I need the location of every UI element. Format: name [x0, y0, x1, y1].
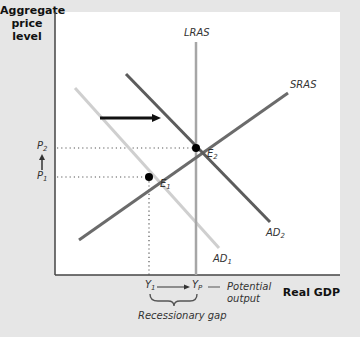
- yp-label-sub: P: [198, 284, 202, 292]
- ad2-label: AD2: [266, 227, 285, 240]
- y1-label: Y1: [145, 279, 156, 292]
- lras-label: LRAS: [184, 27, 210, 38]
- y1-label-sub: 1: [151, 284, 155, 292]
- sras-label: SRAS: [290, 79, 316, 90]
- e2-label: E2: [207, 148, 218, 161]
- x-axis-title: Real GDP: [283, 286, 340, 299]
- diagram-canvas: Aggregate price level: [0, 0, 360, 337]
- e2-label-sub: 2: [213, 153, 217, 161]
- p2-label: P2: [37, 140, 48, 153]
- ad2-label-text: AD: [266, 227, 281, 238]
- ad2-label-sub: 2: [281, 232, 285, 240]
- recessionary-gap-brace: [150, 294, 197, 306]
- ad1-label-text: AD: [213, 253, 228, 264]
- recessionary-gap-label: Recessionary gap: [138, 310, 227, 321]
- p1-label-sub: 1: [43, 175, 47, 183]
- ad1-label-sub: 1: [228, 258, 232, 266]
- ad1-curve: [75, 88, 219, 248]
- sras-curve: [79, 93, 288, 240]
- yp-label: YP: [192, 279, 202, 292]
- e1-label-sub: 1: [166, 183, 170, 191]
- e2-point: [192, 144, 200, 152]
- price-rise-arrowhead-icon: [39, 154, 45, 160]
- potential-output-line2: output: [227, 293, 271, 305]
- p1-label: P1: [37, 170, 48, 183]
- e1-point: [145, 173, 153, 181]
- potential-output-line1: Potential: [227, 281, 271, 293]
- p2-label-sub: 2: [43, 145, 47, 153]
- shift-arrowhead-icon: [152, 114, 161, 122]
- output-arrowhead-icon: [184, 285, 190, 290]
- ad1-label: AD1: [213, 253, 232, 266]
- potential-output-label: Potential output: [227, 281, 271, 305]
- e1-label: E1: [160, 178, 171, 191]
